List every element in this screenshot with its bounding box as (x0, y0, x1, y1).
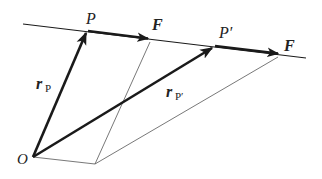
label-point-p-prime: P′ (218, 24, 233, 41)
force-vector-f-at-p (88, 31, 148, 39)
construction-line-o-base (33, 157, 95, 164)
label-r-p-prime: r P′ (166, 83, 184, 102)
force-vector-f-at-p-prime (215, 46, 278, 54)
label-r-pp-sub: P′ (175, 90, 184, 102)
label-point-p: P (85, 10, 96, 27)
label-r-p: r P (36, 75, 51, 94)
label-r-p-main: r (36, 75, 43, 92)
position-vector-r-p (33, 33, 86, 157)
position-vector-r-p-prime (33, 48, 212, 157)
force-diagram: P P′ F F O r P r P′ (0, 0, 322, 179)
label-r-p-sub: P (45, 82, 51, 94)
label-origin: O (17, 151, 28, 167)
label-force-2: F (283, 37, 295, 54)
label-force-1: F (151, 16, 163, 33)
construction-line-base-f2 (95, 57, 278, 164)
label-r-pp-main: r (166, 83, 173, 100)
